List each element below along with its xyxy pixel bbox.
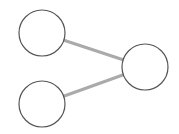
node-bottom-left <box>19 81 65 127</box>
node-top-left <box>19 10 65 56</box>
node-right <box>122 44 168 90</box>
nodes <box>19 10 168 127</box>
graph-diagram <box>0 0 179 134</box>
